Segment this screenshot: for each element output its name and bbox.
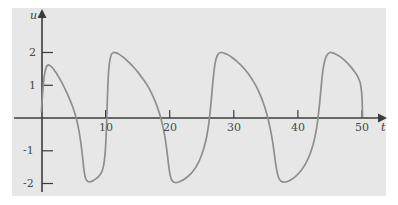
x-axis-label: t — [381, 122, 385, 133]
x-tick-label-50: 50 — [355, 122, 369, 133]
y-tick-label-minus1: -1 — [23, 145, 34, 156]
plot-svg — [0, 0, 398, 205]
x-tick-label-40: 40 — [291, 122, 305, 133]
y-tick-label-minus2: -2 — [23, 178, 34, 189]
y-axis-label: u — [30, 10, 37, 21]
figure-container: u t 10 20 30 40 50 2 1 -1 -2 — [0, 0, 398, 205]
y-tick-label-2: 2 — [29, 47, 36, 58]
x-tick-label-20: 20 — [163, 122, 177, 133]
y-tick-label-1: 1 — [29, 80, 36, 91]
x-tick-label-10: 10 — [99, 122, 113, 133]
x-tick-label-30: 30 — [227, 122, 241, 133]
y-axis-arrowhead — [38, 9, 47, 18]
